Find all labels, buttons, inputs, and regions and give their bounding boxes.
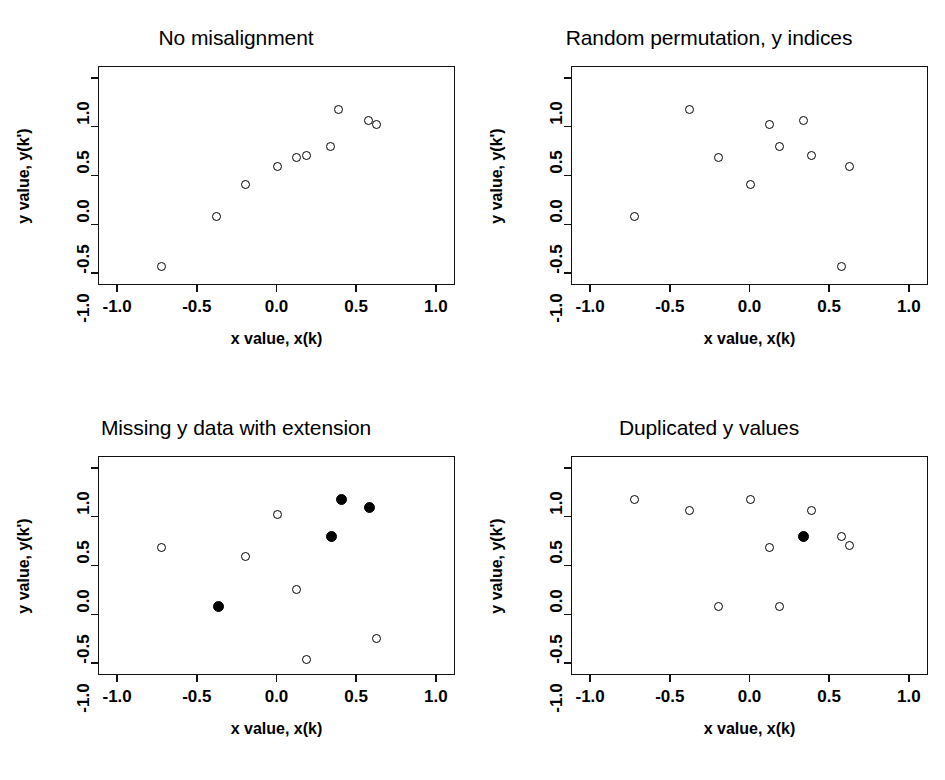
- data-point-open: [765, 120, 774, 129]
- panel-no-misalignment: No misalignment x value, x(k) y value, y…: [0, 0, 472, 390]
- x-axis-tick: [669, 675, 671, 682]
- data-point-open: [157, 543, 166, 552]
- panel-random-permutation: Random permutation, y indices x value, x…: [473, 0, 945, 390]
- x-axis-tick-label: 1.0: [401, 297, 471, 317]
- data-point-open: [372, 120, 381, 129]
- x-axis-tick-label: 0.0: [242, 687, 312, 707]
- data-point-open: [326, 142, 335, 151]
- x-axis-tick-label: -0.5: [635, 687, 705, 707]
- x-axis-tick: [116, 675, 118, 682]
- figure-canvas: No misalignment x value, x(k) y value, y…: [0, 0, 945, 780]
- x-axis-title: x value, x(k): [98, 330, 455, 348]
- data-point-open: [630, 495, 639, 504]
- x-axis-tick: [589, 675, 591, 682]
- data-point-open: [292, 585, 301, 594]
- x-axis-title: x value, x(k): [98, 720, 455, 738]
- data-point-open: [372, 634, 381, 643]
- data-point-open: [157, 262, 166, 271]
- x-axis-tick: [828, 285, 830, 292]
- x-axis-tick: [749, 285, 751, 292]
- x-axis-title: x value, x(k): [571, 330, 928, 348]
- y-axis-tick-label: 1.0: [547, 468, 567, 538]
- x-axis-tick-label: -0.5: [635, 297, 705, 317]
- x-axis-title: x value, x(k): [571, 720, 928, 738]
- y-axis-title: y value, y(k'): [487, 66, 507, 285]
- y-axis-title-text: y value, y(k'): [15, 128, 33, 223]
- x-axis-tick: [355, 285, 357, 292]
- data-point-open: [714, 602, 723, 611]
- data-point-open: [746, 180, 755, 189]
- x-axis-tick: [908, 675, 910, 682]
- y-axis-tick-label: 1.0: [74, 78, 94, 148]
- x-axis-tick: [196, 285, 198, 292]
- x-axis-tick: [276, 285, 278, 292]
- data-point-open: [685, 105, 694, 114]
- x-axis-tick: [435, 285, 437, 292]
- data-point-open: [775, 602, 784, 611]
- data-point-open: [302, 151, 311, 160]
- x-axis-tick: [828, 675, 830, 682]
- data-point-open: [765, 543, 774, 552]
- x-axis-tick-label: -0.5: [162, 297, 232, 317]
- y-axis-tick-label: 1.0: [74, 468, 94, 538]
- y-axis-title-text: y value, y(k'): [488, 518, 506, 613]
- y-axis-title-text: y value, y(k'): [488, 128, 506, 223]
- x-axis-tick: [908, 285, 910, 292]
- data-point-filled: [213, 601, 224, 612]
- data-point-filled: [798, 531, 809, 542]
- panel-title: Missing y data with extension: [0, 416, 472, 440]
- data-point-open: [273, 510, 282, 519]
- data-point-open: [241, 180, 250, 189]
- data-point-filled: [364, 502, 375, 513]
- plot-area: [571, 66, 928, 285]
- x-axis-tick: [196, 675, 198, 682]
- y-axis-title: y value, y(k'): [14, 66, 34, 285]
- data-point-filled: [326, 531, 337, 542]
- x-axis-tick: [435, 675, 437, 682]
- x-axis-tick-label: 0.0: [242, 297, 312, 317]
- data-point-filled: [336, 494, 347, 505]
- x-axis-tick: [116, 285, 118, 292]
- plot-area: [571, 456, 928, 675]
- x-axis-tick-label: 0.5: [794, 687, 864, 707]
- panel-duplicated-y-values: Duplicated y values x value, x(k) y valu…: [473, 390, 945, 780]
- data-point-open: [292, 153, 301, 162]
- y-axis-title: y value, y(k'): [487, 456, 507, 675]
- panel-missing-y-data: Missing y data with extension x value, x…: [0, 390, 472, 780]
- x-axis-tick-label: -0.5: [162, 687, 232, 707]
- x-axis-tick-label: 1.0: [874, 297, 944, 317]
- x-axis-tick: [749, 675, 751, 682]
- data-point-open: [630, 212, 639, 221]
- plot-area: [98, 456, 455, 675]
- x-axis-tick-label: 0.5: [794, 297, 864, 317]
- panel-title: Random permutation, y indices: [473, 26, 945, 50]
- data-point-open: [807, 506, 816, 515]
- data-point-open: [807, 151, 816, 160]
- data-point-open: [746, 495, 755, 504]
- x-axis-tick: [669, 285, 671, 292]
- data-point-open: [714, 153, 723, 162]
- data-point-open: [845, 162, 854, 171]
- y-axis-title-text: y value, y(k'): [15, 518, 33, 613]
- data-point-open: [302, 655, 311, 664]
- x-axis-tick-label: 0.0: [715, 687, 785, 707]
- y-axis-title: y value, y(k'): [14, 456, 34, 675]
- x-axis-tick: [355, 675, 357, 682]
- data-point-open: [241, 552, 250, 561]
- panel-title: No misalignment: [0, 26, 472, 50]
- x-axis-tick-label: 1.0: [401, 687, 471, 707]
- data-point-open: [273, 162, 282, 171]
- data-point-open: [837, 262, 846, 271]
- data-point-open: [837, 532, 846, 541]
- data-point-open: [212, 212, 221, 221]
- plot-area: [98, 66, 455, 285]
- x-axis-tick-label: 1.0: [874, 687, 944, 707]
- x-axis-tick-label: 0.0: [715, 297, 785, 317]
- y-axis-tick-label: 1.0: [547, 78, 567, 148]
- x-axis-tick-label: 0.5: [321, 297, 391, 317]
- data-point-open: [845, 541, 854, 550]
- panel-title: Duplicated y values: [473, 416, 945, 440]
- x-axis-tick: [276, 675, 278, 682]
- data-point-open: [775, 142, 784, 151]
- data-point-open: [799, 116, 808, 125]
